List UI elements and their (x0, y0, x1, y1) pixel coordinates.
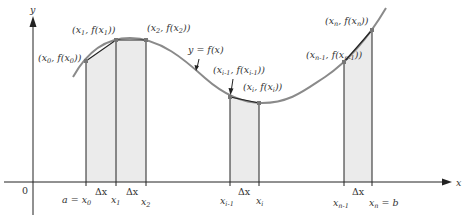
tick-label-xn: xn = b (369, 197, 399, 210)
tick-label-xnm1: xn-1 (333, 197, 349, 210)
point-label-xim1: (xi-1, f(xi-1)) (213, 64, 265, 77)
tick-label-xi: xi (256, 195, 263, 208)
strip-2 (116, 40, 146, 182)
tick-label-xim1: xi-1 (220, 195, 234, 208)
point-label-xi: (xi, f(xi)) (243, 81, 283, 94)
tick-label-x0: a = x0 (62, 194, 91, 207)
delta-x-label-1: Δx (95, 186, 108, 197)
tick-label-x2: x2 (141, 196, 151, 209)
x-axis-label: x (456, 177, 462, 188)
point-label-x2: (x2, f(x2)) (147, 22, 191, 35)
origin-label: 0 (22, 185, 28, 196)
strip-1 (86, 40, 116, 182)
strip-i (230, 97, 259, 182)
tick-label-x1: x1 (111, 194, 121, 207)
y-axis-label: y (29, 4, 36, 15)
delta-x-label-i: Δx (238, 186, 251, 197)
y-axis-arrow-icon (30, 16, 37, 27)
trapezoidal-rule-diagram: y x 0 y = f(x) (x0, f(x0)) (x1, f(x1)) (… (0, 0, 468, 220)
point-label-xnm1: (xn-1, f(xn-1)) (306, 49, 362, 62)
point-label-x1: (x1, f(x1)) (72, 24, 116, 37)
point-label-x0: (x0, f(x0)) (38, 52, 82, 65)
delta-x-label-n: Δx (352, 186, 365, 197)
delta-x-label-2: Δx (126, 186, 139, 197)
x-axis-arrow-icon (442, 179, 452, 186)
point-label-xn: (xn, f(xn)) (325, 15, 369, 28)
curve-label: y = f(x) (187, 44, 224, 55)
